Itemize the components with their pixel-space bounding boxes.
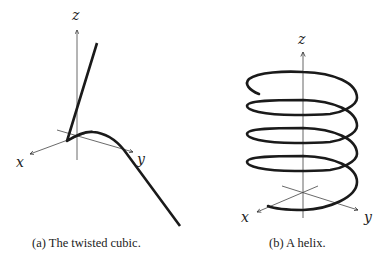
y-axis-label: y [364, 210, 372, 224]
helix-curve [247, 72, 357, 210]
x-axis-label: x [241, 210, 249, 224]
z-axis-label: z [298, 32, 305, 46]
figure: z x y (a) The twisted cubic. z x y (b) A… [0, 0, 391, 265]
helix-plot [0, 0, 391, 265]
x-axis [257, 186, 318, 212]
caption-b: (b) A helix. [269, 237, 326, 250]
